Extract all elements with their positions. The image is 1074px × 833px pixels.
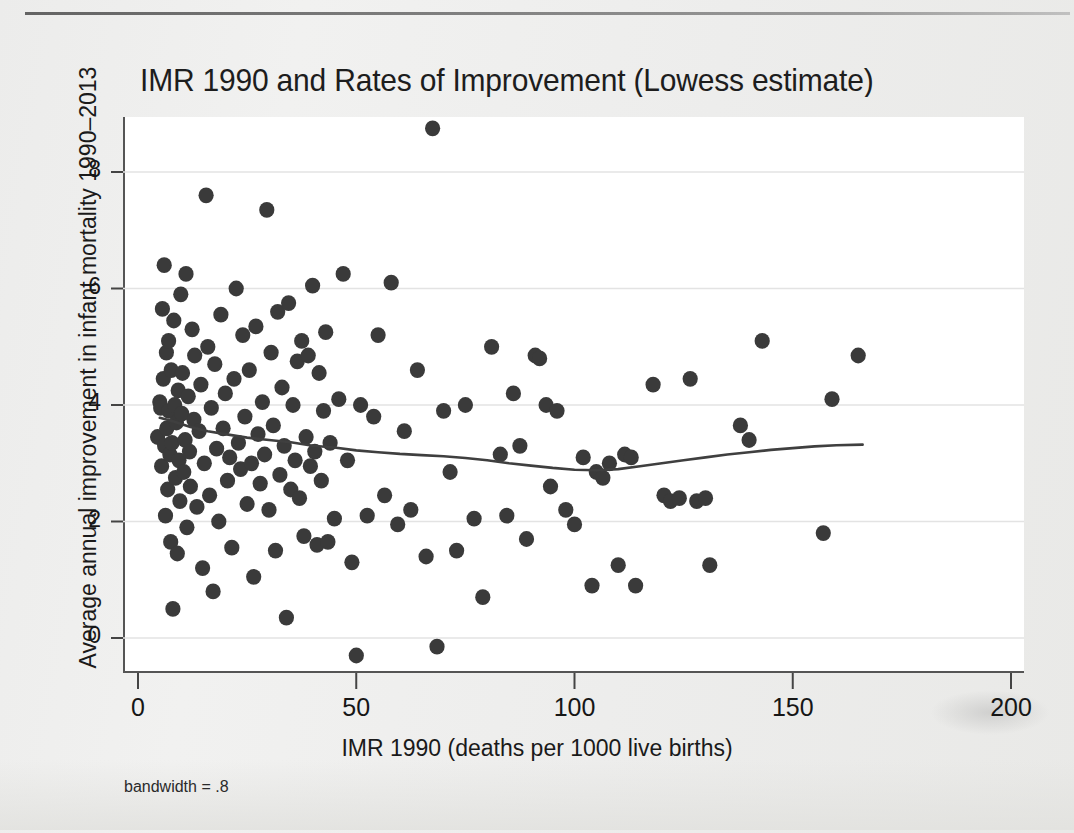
data-point <box>246 569 261 585</box>
data-point <box>742 432 757 448</box>
data-point <box>229 281 244 297</box>
data-point <box>532 351 547 367</box>
data-point <box>611 557 626 573</box>
data-point <box>296 528 311 544</box>
scatter-points <box>150 120 866 663</box>
data-point <box>698 490 713 506</box>
data-point <box>259 202 274 218</box>
data-point <box>851 348 866 364</box>
data-point <box>301 348 316 364</box>
data-point <box>197 455 212 471</box>
data-point <box>244 455 259 471</box>
data-point <box>646 377 661 393</box>
data-point <box>419 549 434 565</box>
data-point <box>237 409 252 425</box>
data-point <box>506 386 521 402</box>
data-point <box>272 467 287 483</box>
data-point <box>204 400 219 416</box>
data-point <box>235 327 250 343</box>
y-tick-label: 6 <box>61 273 101 300</box>
data-point <box>211 514 226 530</box>
data-point <box>584 578 599 594</box>
data-point <box>173 286 188 302</box>
y-tick-label: 8 <box>61 156 101 183</box>
data-point <box>366 409 381 425</box>
data-point <box>410 362 425 378</box>
data-point <box>816 525 831 541</box>
data-point <box>628 578 643 594</box>
data-point <box>558 502 573 518</box>
data-point <box>314 473 329 489</box>
data-point <box>340 452 355 468</box>
data-point <box>266 418 281 434</box>
x-tick-label: 0 <box>98 693 178 722</box>
data-point <box>182 444 197 460</box>
data-point <box>449 543 464 559</box>
data-point <box>484 339 499 355</box>
data-point <box>360 508 375 524</box>
data-point <box>189 499 204 515</box>
x-axis-label: IMR 1990 (deaths per 1000 live births) <box>0 735 1074 762</box>
data-point <box>318 324 333 340</box>
data-point <box>305 278 320 294</box>
data-point <box>242 362 257 378</box>
data-point <box>285 397 300 413</box>
data-point <box>475 589 490 605</box>
data-point <box>344 554 359 570</box>
data-point <box>567 517 582 533</box>
data-point <box>519 531 534 547</box>
chart-figure: IMR 1990 and Rates of Improvement (Lowes… <box>0 0 1074 833</box>
data-point <box>294 333 309 349</box>
data-point <box>371 327 386 343</box>
data-point <box>279 610 294 626</box>
data-point <box>336 266 351 282</box>
data-point <box>755 333 770 349</box>
data-point <box>458 397 473 413</box>
data-point <box>467 511 482 527</box>
data-point <box>499 508 514 524</box>
data-point <box>390 517 405 533</box>
data-point <box>320 534 335 550</box>
data-point <box>240 496 255 512</box>
x-tick-label: 100 <box>535 693 615 722</box>
bandwidth-note: bandwidth = .8 <box>124 778 229 796</box>
data-point <box>327 511 342 527</box>
data-point <box>543 479 558 495</box>
data-point <box>397 423 412 439</box>
data-point <box>303 458 318 474</box>
data-point <box>195 560 210 576</box>
data-point <box>331 391 346 407</box>
data-point <box>281 295 296 311</box>
data-point <box>222 450 237 466</box>
axis-ticks <box>111 172 1011 689</box>
y-tick-label: 2 <box>61 506 101 533</box>
data-point <box>443 464 458 480</box>
data-point <box>264 345 279 361</box>
data-point <box>181 388 196 404</box>
data-point <box>165 601 180 617</box>
data-point <box>288 452 303 468</box>
data-point <box>179 519 194 535</box>
data-point <box>377 487 392 503</box>
data-point <box>164 435 179 451</box>
data-point <box>349 648 364 664</box>
data-point <box>702 557 717 573</box>
data-point <box>261 502 276 518</box>
data-point <box>316 403 331 419</box>
data-point <box>253 476 268 492</box>
data-point <box>595 470 610 486</box>
data-point <box>155 301 170 317</box>
y-axis-label: Average annual improvement in infant mor… <box>75 48 102 688</box>
x-tick-label: 150 <box>753 693 833 722</box>
data-point <box>166 313 181 329</box>
data-point <box>199 187 214 203</box>
x-tick-label: 50 <box>316 693 396 722</box>
data-point <box>172 493 187 509</box>
data-point <box>384 275 399 291</box>
data-point <box>683 371 698 387</box>
data-point <box>549 403 564 419</box>
data-point <box>292 490 307 506</box>
data-point <box>206 584 221 600</box>
y-tick-label: 0 <box>61 622 101 649</box>
data-point <box>576 450 591 466</box>
